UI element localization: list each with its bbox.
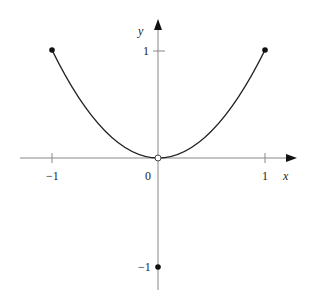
x-tick-label-neg1: −1 <box>46 169 59 183</box>
y-tick-label-1: 1 <box>143 44 149 58</box>
y-axis-arrow-icon <box>154 19 162 30</box>
function-graph: −1 1 0 x y 1 −1 <box>0 0 313 307</box>
y-tick-label-neg1: −1 <box>138 260 151 274</box>
endpoint-right <box>262 47 268 53</box>
open-circle-origin <box>155 155 161 161</box>
y-axis-label: y <box>137 24 144 38</box>
x-axis-label: x <box>282 169 289 183</box>
isolated-point <box>155 264 161 270</box>
origin-label: 0 <box>145 169 151 183</box>
x-tick-label-1: 1 <box>262 169 268 183</box>
x-axis-arrow-icon <box>286 154 297 162</box>
endpoint-left <box>49 47 55 53</box>
